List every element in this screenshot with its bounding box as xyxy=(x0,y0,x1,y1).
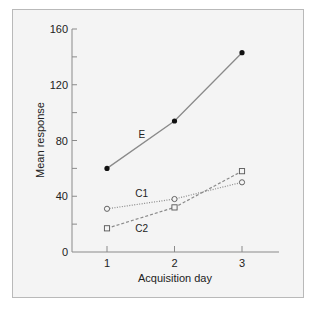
data-point-filled-circle xyxy=(104,166,109,171)
data-point-open-square xyxy=(239,169,244,174)
x-axis-title: Acquisition day xyxy=(138,272,212,284)
data-point-open-circle xyxy=(239,180,244,185)
y-tick-label: 160 xyxy=(50,23,68,35)
data-point-open-circle xyxy=(104,206,109,211)
data-point-open-square xyxy=(104,226,109,231)
data-point-filled-circle xyxy=(239,50,244,55)
series-line-e xyxy=(107,53,242,169)
series-label-c1: C1 xyxy=(135,188,148,199)
x-tick-label: 2 xyxy=(171,257,177,269)
y-tick-label: 0 xyxy=(62,246,68,258)
data-point-open-square xyxy=(172,205,177,210)
x-tick-label: 3 xyxy=(239,257,245,269)
data-point-filled-circle xyxy=(172,118,177,123)
series-label-c2: C2 xyxy=(135,223,148,234)
y-axis-title: Mean response xyxy=(34,102,46,178)
line-chart: 04080120160123Acquisition dayMean respon… xyxy=(0,0,311,312)
y-tick-label: 40 xyxy=(56,190,68,202)
y-tick-label: 120 xyxy=(50,79,68,91)
series-label-e: E xyxy=(138,129,145,140)
y-tick-label: 80 xyxy=(56,135,68,147)
data-point-open-circle xyxy=(172,196,177,201)
x-tick-label: 1 xyxy=(104,257,110,269)
